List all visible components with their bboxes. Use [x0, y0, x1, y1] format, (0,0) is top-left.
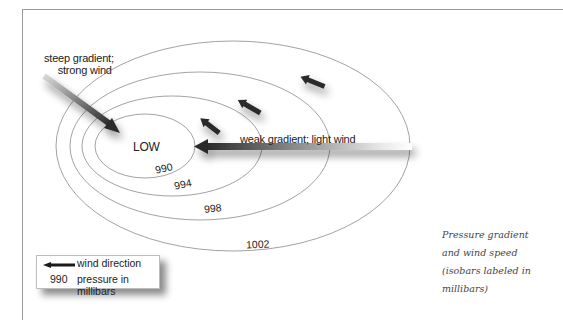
small-wind-arrow-1: [197, 114, 222, 137]
small-wind-arrow-3: [299, 72, 327, 91]
caption-line-4: millibars): [442, 280, 552, 298]
caption-line-1: Pressure gradient: [442, 226, 552, 244]
isobar-label-998: 998: [203, 201, 222, 215]
left-arrow-icon: [43, 262, 75, 268]
steep-gradient-line2: strong wind: [44, 64, 114, 76]
steep-gradient-label: steep gradient; strong wind: [44, 52, 114, 76]
strong-wind-arrow: [44, 76, 120, 133]
figure-caption: Pressure gradient and wind speed (isobar…: [442, 226, 552, 298]
small-wind-arrow-2: [235, 96, 263, 118]
legend-pressure-label: pressure in millibars: [77, 273, 159, 297]
caption-line-2: and wind speed: [442, 244, 552, 262]
low-pressure-label: LOW: [133, 140, 160, 154]
weak-gradient-label: weak gradient; light wind: [240, 133, 355, 145]
legend: wind direction 990 pressure in millibars: [36, 255, 160, 289]
caption-line-3: (isobars labeled in: [442, 262, 552, 280]
steep-gradient-line1: steep gradient;: [44, 52, 114, 64]
legend-wind-label: wind direction: [77, 257, 141, 269]
isobar-label-1002: 1002: [246, 237, 270, 250]
legend-pressure-sample: 990: [50, 273, 68, 285]
